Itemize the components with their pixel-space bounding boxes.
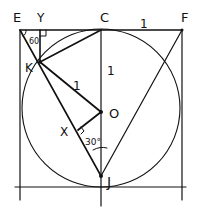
label-angle-j: 30° xyxy=(85,137,101,147)
label-co-length: 1 xyxy=(107,64,115,78)
point-o xyxy=(99,110,103,114)
label-o: O xyxy=(109,106,119,121)
geometry-diagram: E Y C F K O X J 1 1 1 60 30° xyxy=(0,0,203,217)
label-f: F xyxy=(181,10,188,25)
segment-jf xyxy=(101,30,182,176)
point-k xyxy=(38,60,42,64)
label-cf-length: 1 xyxy=(140,17,148,31)
label-x: X xyxy=(60,125,68,139)
label-angle-e: 60 xyxy=(29,37,39,46)
label-c: C xyxy=(100,10,109,25)
label-e: E xyxy=(13,10,21,25)
label-k: K xyxy=(25,61,34,75)
label-ko-length: 1 xyxy=(73,79,81,93)
label-y: Y xyxy=(36,11,45,25)
label-j: J xyxy=(106,174,111,190)
segment-ko xyxy=(40,62,101,112)
right-angle-marker-y xyxy=(40,30,46,36)
angle-arc-j xyxy=(93,147,107,150)
point-j xyxy=(99,174,103,178)
right-angle-marker-x xyxy=(81,127,84,134)
point-f xyxy=(181,29,184,32)
